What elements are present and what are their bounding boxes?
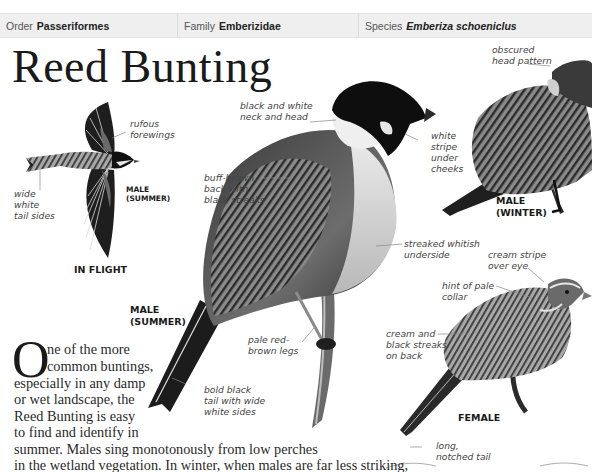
label-wide-white-tail-sides: wide white tail sides <box>14 188 55 221</box>
flight-bird-illustration <box>26 102 140 258</box>
label-cream-black-streaks: cream and black streaks on back <box>386 328 447 361</box>
label-streaked-whitish-underside: streaked whitish underside <box>404 238 480 260</box>
intro-line-8: in the wetland vegetation. In winter, wh… <box>14 457 408 472</box>
label-cream-stripe-over-eye: cream stripe over eye <box>488 249 546 271</box>
caption-female: FEMALE <box>458 412 500 424</box>
intro-line-7: summer. Males sing monotonously from low… <box>14 441 318 458</box>
label-obscured-head-pattern: obscured head pattern <box>492 44 552 66</box>
label-buff-brown-back: buff-brown back with black streaks <box>204 172 265 205</box>
male-summer-illustration <box>148 81 436 428</box>
intro-line-4: or wet landscape, the <box>14 391 135 408</box>
label-long-notched-tail: long, notched tail <box>436 440 491 462</box>
label-pale-red-brown-legs: pale red- brown legs <box>248 334 298 356</box>
label-bold-black-tail: bold black tail with wide white sides <box>204 384 265 417</box>
caption-male-summer: MALE (SUMMER) <box>130 304 186 328</box>
label-hint-of-pale-collar: hint of pale collar <box>442 280 494 302</box>
intro-line-1: ne of the more <box>47 341 130 358</box>
label-black-white-neck-head: black and white neck and head <box>240 100 313 122</box>
label-rufous-forewings: rufous forewings <box>130 118 175 140</box>
intro-line-2: common buntings, <box>47 358 153 375</box>
intro-line-6: to find and identify in <box>14 424 139 441</box>
caption-in-flight: IN FLIGHT <box>74 264 127 276</box>
intro-line-3: especially in any damp <box>14 375 145 392</box>
label-white-stripe-under-cheeks: white stripe under cheeks <box>431 130 463 174</box>
intro-line-5: Reed Bunting is easy <box>14 408 135 425</box>
male-winter-illustration <box>442 60 592 216</box>
caption-flight-male-summer: MALE (SUMMER) <box>126 185 170 203</box>
caption-male-winter: MALE (WINTER) <box>496 195 547 219</box>
